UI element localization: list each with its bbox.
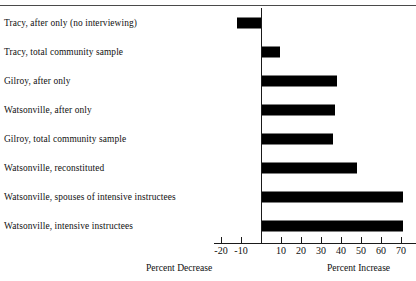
category-label: Tracy, after only (no interviewing) xyxy=(4,18,137,28)
x-tick-label: 20 xyxy=(296,245,306,256)
axis-caption-decrease: Percent Decrease xyxy=(146,262,212,273)
category-label: Gilroy, total community sample xyxy=(4,134,126,144)
x-tick xyxy=(281,237,282,243)
bar-positive xyxy=(262,191,403,202)
bar-positive xyxy=(262,104,335,115)
category-label: Tracy, total community sample xyxy=(4,47,123,57)
x-tick xyxy=(361,237,362,243)
x-tick-label: -10 xyxy=(234,245,247,256)
chart-row: Tracy, total community sample xyxy=(0,37,416,66)
bar-positive xyxy=(262,133,333,144)
plot-area: Tracy, after only (no interviewing) Trac… xyxy=(0,8,416,240)
x-tick-label: 70 xyxy=(396,245,406,256)
category-label: Gilroy, after only xyxy=(4,76,71,86)
x-tick-label: -20 xyxy=(214,245,227,256)
chart-row: Watsonville, intensive instructees xyxy=(0,211,416,240)
x-tick xyxy=(321,237,322,243)
x-tick xyxy=(241,237,242,243)
category-label: Watsonville, after only xyxy=(4,105,92,115)
chart-row: Watsonville, reconstituted xyxy=(0,153,416,182)
chart-row: Tracy, after only (no interviewing) xyxy=(0,8,416,37)
x-tick-label: 10 xyxy=(276,245,286,256)
bar-negative xyxy=(237,17,261,28)
bar-positive xyxy=(262,220,403,231)
chart-row: Gilroy, after only xyxy=(0,66,416,95)
zero-axis-line xyxy=(261,8,262,243)
top-divider-rule xyxy=(0,5,416,6)
x-tick xyxy=(341,237,342,243)
x-tick-label: 30 xyxy=(316,245,326,256)
x-tick xyxy=(221,237,222,243)
category-label: Watsonville, spouses of intensive instru… xyxy=(4,192,176,202)
chart-row: Watsonville, spouses of intensive instru… xyxy=(0,182,416,211)
x-tick xyxy=(301,237,302,243)
chart-row: Gilroy, total community sample xyxy=(0,124,416,153)
x-tick-label: 40 xyxy=(336,245,346,256)
x-tick xyxy=(381,237,382,243)
category-label: Watsonville, reconstituted xyxy=(4,163,104,173)
x-tick-label: 60 xyxy=(376,245,386,256)
x-tick-label: 50 xyxy=(356,245,366,256)
chart-row: Watsonville, after only xyxy=(0,95,416,124)
bar-chart-figure: Tracy, after only (no interviewing) Trac… xyxy=(0,0,416,281)
x-tick xyxy=(401,237,402,243)
bar-positive xyxy=(262,75,337,86)
axis-caption-increase: Percent Increase xyxy=(327,262,390,273)
category-label: Watsonville, intensive instructees xyxy=(4,221,133,231)
bar-positive xyxy=(262,46,280,57)
bar-positive xyxy=(262,162,357,173)
